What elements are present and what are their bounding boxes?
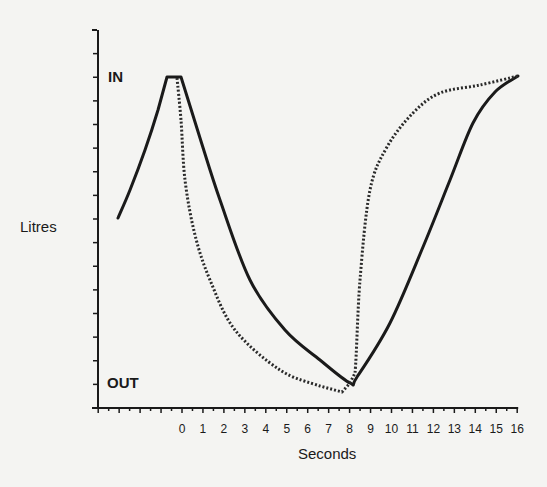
- out-annotation: OUT: [107, 374, 139, 391]
- x-tick-label: 6: [304, 422, 311, 436]
- y-axis-label: Litres: [20, 218, 57, 235]
- x-tick-label: 2: [221, 422, 228, 436]
- x-tick-label: 1: [200, 422, 207, 436]
- x-tick-label: 14: [469, 422, 483, 436]
- x-tick-label: 11: [406, 422, 419, 436]
- x-tick-label: 0: [179, 422, 186, 436]
- x-tick-label: 7: [325, 422, 332, 436]
- x-tick-label: 16: [511, 422, 525, 436]
- x-tick-labels: 012345678910111213141516: [179, 422, 525, 436]
- solid-series-line: [118, 76, 518, 385]
- x-tick-label: 9: [367, 422, 374, 436]
- x-axis: [92, 408, 518, 413]
- y-axis: [92, 30, 98, 409]
- x-axis-label: Seconds: [298, 445, 356, 462]
- in-annotation: IN: [108, 68, 123, 85]
- x-tick-label: 4: [262, 422, 269, 436]
- x-tick-label: 8: [346, 422, 353, 436]
- x-tick-label: 12: [427, 422, 441, 436]
- x-tick-label: 15: [490, 422, 504, 436]
- chart: 012345678910111213141516: [0, 0, 547, 487]
- x-tick-label: 3: [242, 422, 249, 436]
- x-tick-label: 13: [448, 422, 462, 436]
- x-tick-label: 10: [385, 422, 399, 436]
- x-tick-label: 5: [283, 422, 290, 436]
- dashed-series-line: [177, 76, 518, 392]
